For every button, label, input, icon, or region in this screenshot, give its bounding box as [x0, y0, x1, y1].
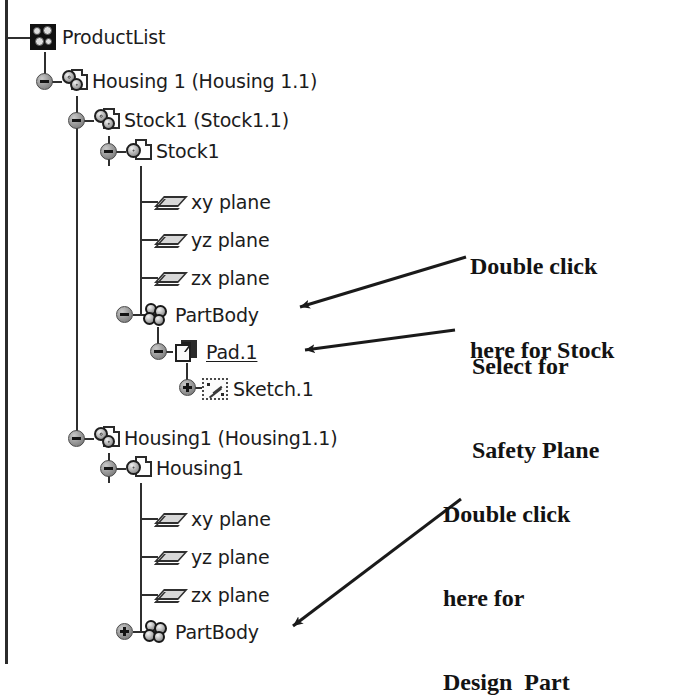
tree-row-stock1-pad1[interactable]: Pad.1 — [173, 337, 257, 367]
annotation-line: Double click — [443, 500, 570, 528]
annotation-design-part: Double click here for Design Part — [443, 444, 570, 699]
tree-line-stock-xy — [140, 201, 158, 203]
tree-expander-stock1-instance[interactable] — [68, 112, 85, 129]
tree-row-housing1-yz-plane[interactable]: yz plane — [158, 542, 269, 572]
tree-row-stock1-yz-plane[interactable]: yz plane — [158, 225, 269, 255]
tree-row-housing-1-instance[interactable]: Housing 1 (Housing 1.1) — [62, 66, 317, 96]
product-document-icon — [62, 68, 88, 94]
arrow-to-stock-partbody — [300, 257, 466, 307]
tree-row-label: yz plane — [191, 548, 269, 567]
tree-line-housing-part-branch — [140, 483, 142, 633]
tree-row-stock1-xy-plane[interactable]: xy plane — [158, 187, 271, 217]
tree-expander-stock1-partbody[interactable] — [116, 306, 133, 323]
tree-row-stock1-partbody[interactable]: PartBody — [142, 300, 259, 330]
tree-row-stock1-sketch1[interactable]: Sketch.1 — [202, 374, 314, 404]
tree-row-housing1-partbody[interactable]: PartBody — [142, 617, 259, 647]
tree-line-h3 — [117, 151, 126, 153]
tree-row-label: xy plane — [191, 510, 271, 529]
annotation-line: Select for — [472, 352, 599, 380]
tree-row-label: Pad.1 — [206, 343, 257, 362]
tree-row-label: Stock1 — [156, 142, 219, 161]
tree-line-stock-part-branch — [140, 166, 142, 316]
annotation-line: Design Part — [443, 668, 570, 696]
tree-line-housing-yz — [140, 556, 158, 558]
tree-row-label: yz plane — [191, 231, 269, 250]
tree-line-stock-zx — [140, 277, 158, 279]
tree-row-housing1-zx-plane[interactable]: zx plane — [158, 580, 269, 610]
part-document-icon — [126, 138, 152, 164]
product-icon — [30, 24, 56, 50]
tree-expander-housing1-instance[interactable] — [68, 430, 85, 447]
tree-expander-stock1-part[interactable] — [100, 143, 117, 160]
plane-icon — [158, 269, 186, 287]
arrow-to-housing-partbody — [293, 499, 461, 626]
plane-icon — [158, 510, 186, 528]
tree-row-housing1-instance[interactable]: Housing1 (Housing1.1) — [94, 423, 337, 453]
tree-root-connector — [8, 37, 30, 39]
tree-row-productlist[interactable]: ProductList — [30, 22, 165, 52]
plane-icon — [158, 548, 186, 566]
part-document-icon — [126, 455, 152, 481]
tree-row-label: zx plane — [191, 586, 269, 605]
tree-row-label: Housing1 (Housing1.1) — [124, 429, 337, 448]
arrow-to-pad1 — [305, 330, 455, 350]
product-document-icon — [94, 425, 120, 451]
tree-line-h9 — [133, 631, 142, 633]
tree-line-stock-yz — [140, 239, 158, 241]
partbody-icon — [142, 302, 170, 328]
tree-row-label: PartBody — [175, 306, 259, 325]
partbody-icon — [142, 619, 170, 645]
tree-row-housing1-xy-plane[interactable]: xy plane — [158, 504, 271, 534]
plane-icon — [158, 231, 186, 249]
tree-row-stock1-part[interactable]: Stock1 — [126, 136, 219, 166]
tree-line-h1 — [53, 81, 62, 83]
tree-row-label: zx plane — [191, 269, 269, 288]
tree-line-h8 — [117, 468, 126, 470]
tree-row-stock1-instance[interactable]: Stock1 (Stock1.1) — [94, 105, 289, 135]
tree-row-stock1-zx-plane[interactable]: zx plane — [158, 263, 269, 293]
product-document-icon — [94, 107, 120, 133]
tree-row-label: ProductList — [62, 28, 165, 47]
tree-line-housing1-branch — [76, 96, 78, 440]
tree-expander-housing1-part[interactable] — [100, 460, 117, 477]
annotation-line: here for — [443, 584, 570, 612]
tree-row-label: PartBody — [175, 623, 259, 642]
annotation-line: Double click — [470, 252, 614, 280]
tree-row-label: Housing1 — [156, 459, 244, 478]
sketch-icon — [202, 378, 228, 400]
tree-row-label: Sketch.1 — [233, 380, 314, 399]
plane-icon — [158, 586, 186, 604]
tree-line-h4 — [133, 314, 142, 316]
tree-line-h7 — [85, 438, 94, 440]
tree-expander-stock1-sketch1[interactable] — [179, 379, 196, 396]
plane-icon — [158, 193, 186, 211]
tree-row-label: Stock1 (Stock1.1) — [124, 111, 289, 130]
tree-line-housing-xy — [140, 518, 158, 520]
tree-row-housing1-part[interactable]: Housing1 — [126, 453, 244, 483]
tree-line-h2 — [85, 120, 94, 122]
tree-row-label: xy plane — [191, 193, 271, 212]
tree-expander-housing-1-instance[interactable] — [36, 73, 53, 90]
tree-expander-housing1-partbody[interactable] — [116, 623, 133, 640]
tree-expander-stock1-pad1[interactable] — [150, 343, 167, 360]
tree-line-housing-zx — [140, 594, 158, 596]
tree-root-trunk — [5, 0, 8, 664]
tree-row-label: Housing 1 (Housing 1.1) — [92, 72, 317, 91]
pad-icon — [173, 339, 201, 365]
